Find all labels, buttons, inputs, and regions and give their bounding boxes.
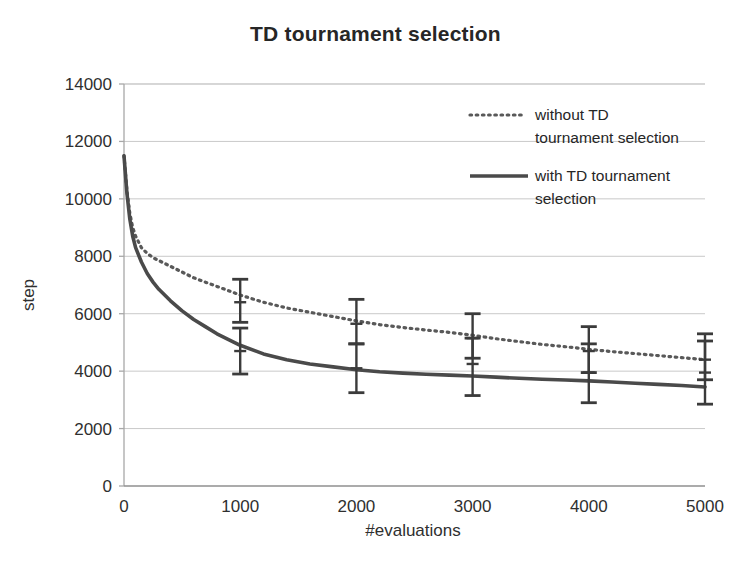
- y-tick-label-2000: 2000: [74, 420, 112, 439]
- x-axis-tick-labels: 010002000300040005000: [119, 497, 724, 516]
- error-bars-layer: [232, 279, 713, 404]
- x-tick-label-4000: 4000: [570, 497, 608, 516]
- y-tick-label-12000: 12000: [65, 132, 112, 151]
- y-tick-label-0: 0: [103, 477, 112, 496]
- x-tick-label-3000: 3000: [454, 497, 492, 516]
- legend-label-with-td-line2: selection: [535, 190, 596, 207]
- x-axis-title: #evaluations: [365, 521, 460, 540]
- chart-plot-area: 02000400060008000100001200014000 0100020…: [0, 0, 751, 588]
- x-tick-label-0: 0: [119, 497, 128, 516]
- data-series-layer: [124, 156, 705, 387]
- x-tick-label-1000: 1000: [221, 497, 259, 516]
- y-tick-label-4000: 4000: [74, 362, 112, 381]
- legend-label-without-td-line2: tournament selection: [535, 129, 679, 146]
- x-tick-label-2000: 2000: [337, 497, 375, 516]
- y-tick-label-6000: 6000: [74, 305, 112, 324]
- series-line-with-td: [124, 156, 705, 387]
- legend-label-with-td-line1: with TD tournament: [534, 167, 671, 184]
- legend-label-without-td-line1: without TD: [534, 106, 609, 123]
- y-axis-title: step: [19, 279, 38, 311]
- chart-legend: without TD tournament selection with TD …: [470, 106, 679, 207]
- y-tick-label-8000: 8000: [74, 247, 112, 266]
- y-axis-tick-labels: 02000400060008000100001200014000: [65, 75, 112, 496]
- y-tick-label-14000: 14000: [65, 75, 112, 94]
- chart-figure: TD tournament selection 0200040006000800…: [0, 0, 751, 588]
- x-tick-label-5000: 5000: [686, 497, 724, 516]
- y-tick-label-10000: 10000: [65, 190, 112, 209]
